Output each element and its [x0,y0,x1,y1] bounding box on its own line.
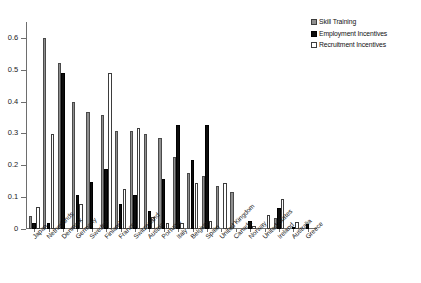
bar-group [173,22,184,229]
bar-group [288,22,299,229]
bar-group [202,22,213,229]
bar-recruitment [123,189,126,229]
bar-group [43,22,54,229]
y-tick-mark [21,229,26,230]
y-tick-label: 0.5 [0,66,18,74]
legend-swatch-icon-employment-incentives [311,31,317,37]
y-tick-label: 0.6 [0,34,18,42]
legend-label-recruitment-incentives: Recruitment Incentives [319,41,386,49]
legend-swatch-icon-skill-training [311,19,317,25]
bar-recruitment [223,183,226,229]
bar-group [187,22,198,229]
chart-legend: Skill Training Employment Incentives Rec… [311,18,417,53]
bar-group [101,22,112,229]
bar-group [130,22,141,229]
bar-group [86,22,97,229]
bar-employment [61,73,64,229]
bar-recruitment [108,73,111,229]
y-tick-label: 0.2 [0,161,18,169]
bar-recruitment [137,128,140,229]
bar-group [144,22,155,229]
bar-skill [43,38,46,229]
y-tick-label: 0.1 [0,193,18,201]
legend-item-employment-incentives: Employment Incentives [311,30,417,39]
bar-group [58,22,69,229]
y-tick-label: 0.4 [0,98,18,106]
bar-employment [162,179,165,229]
bar-group [245,22,256,229]
bar-chart: 00.10.20.30.40.50.6 JapanNetherlandsDenm… [0,0,421,283]
bar-group [230,22,241,229]
bar-group [29,22,40,229]
bar-group [259,22,270,229]
bar-employment [205,125,208,229]
legend-swatch-icon-recruitment-incentives [311,42,317,48]
legend-item-skill-training: Skill Training [311,18,417,27]
bar-recruitment [195,183,198,229]
bar-employment [176,125,179,229]
bar-group [274,22,285,229]
bar-group [72,22,83,229]
y-tick-label: 0 [0,225,18,233]
bar-group [115,22,126,229]
bar-group [158,22,169,229]
bar-group [302,22,313,229]
bar-group [216,22,227,229]
legend-label-employment-incentives: Employment Incentives [319,30,387,38]
legend-item-recruitment-incentives: Recruitment Incentives [311,41,417,50]
y-tick-label: 0.3 [0,129,18,137]
bar-recruitment [51,134,54,229]
plot-area [26,22,314,229]
legend-label-skill-training: Skill Training [319,18,356,26]
